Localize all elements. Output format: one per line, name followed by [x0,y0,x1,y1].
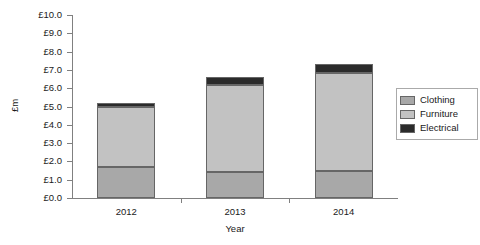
y-axis-title: £m [9,86,20,126]
y-axis-tick [67,125,72,126]
y-axis-tick-label: £6.0 [14,83,62,93]
bar-stack [206,15,264,198]
x-axis-tick-label: 2012 [91,206,161,217]
y-axis-tick-label: £4.0 [14,120,62,130]
legend-swatch-clothing [400,96,415,105]
y-axis-tick [67,88,72,89]
legend-item-furniture: Furniture [400,107,473,121]
y-axis-tick-label: £1.0 [14,175,62,185]
y-axis-tick [67,180,72,181]
legend-item-electrical: Electrical [400,121,473,135]
y-axis-tick-label: £9.0 [14,28,62,38]
legend-swatch-furniture [400,110,415,119]
y-axis-tick [67,52,72,53]
legend-label: Clothing [420,95,455,105]
x-axis-tick-label: 2014 [309,206,379,217]
legend-swatch-electrical [400,124,415,133]
x-axis-title: Year [72,223,398,234]
bar-segment-clothing [97,167,155,198]
bar-segment-electrical [315,64,373,72]
y-axis-tick-label: £3.0 [14,138,62,148]
bar-segment-furniture [315,73,373,172]
x-axis-tick [289,198,290,203]
bar-segment-furniture [206,85,264,172]
y-axis-tick [67,161,72,162]
y-axis-tick-label: £0.0 [14,193,62,203]
legend-label: Furniture [420,109,458,119]
y-axis-tick [67,15,72,16]
y-axis-tick [67,143,72,144]
x-axis-line [72,198,398,199]
bar-segment-electrical [206,77,264,85]
y-axis-tick-label: £8.0 [14,47,62,57]
y-axis-tick-label: £2.0 [14,156,62,166]
bar-stack [315,15,373,198]
stacked-bar-chart: £0.0£1.0£2.0£3.0£4.0£5.0£6.0£7.0£8.0£9.0… [0,0,480,245]
x-axis-tick-label: 2013 [200,206,270,217]
bar-stack [97,15,155,198]
bar-segment-clothing [206,172,264,198]
y-axis-line [72,15,73,199]
y-axis-tick-label: £10.0 [14,10,62,20]
y-axis-tick [67,107,72,108]
y-axis-tick-label: £5.0 [14,102,62,112]
x-axis-tick [181,198,182,203]
legend-item-clothing: Clothing [400,93,473,107]
y-axis-tick [67,70,72,71]
legend-label: Electrical [420,123,459,133]
bar-segment-electrical [97,103,155,107]
chart-legend: ClothingFurnitureElectrical [396,88,478,140]
y-axis-tick-label: £7.0 [14,65,62,75]
y-axis-tick [67,33,72,34]
bar-segment-clothing [315,171,373,198]
bar-segment-furniture [97,107,155,167]
